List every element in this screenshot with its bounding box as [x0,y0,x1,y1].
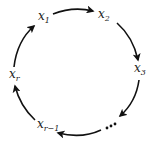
svg-text:xr−1: xr−1 [37,117,59,133]
svg-text:x3: x3 [134,61,146,77]
node-xr-1: xr−1 [37,117,59,133]
edge-xr-x1 [14,26,34,67]
cycle-diagram: x1 x2 x3 xr−1 xr [0,0,153,147]
node-x3: x3 [134,61,146,77]
edge-ellipsis-xr1 [58,130,101,135]
edge-x2-x3 [117,23,138,60]
svg-text:x1: x1 [38,9,50,25]
edge-xr1-xr [15,86,35,120]
edge-x1-x2 [53,9,93,14]
node-xr: xr [9,67,21,83]
node-x1: x1 [38,9,50,25]
svg-text:x2: x2 [98,7,110,23]
svg-text:xr: xr [9,67,21,83]
node-ellipsis [106,123,117,130]
node-x2: x2 [98,7,110,23]
edge-x3-ellipsis [120,80,139,116]
